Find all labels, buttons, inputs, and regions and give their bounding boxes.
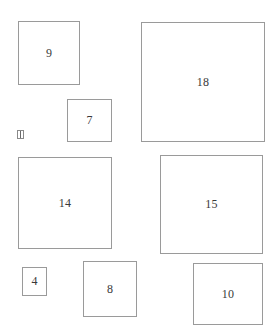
box-9: 9	[18, 21, 80, 85]
box-label: 7	[86, 113, 92, 128]
box-label: 15	[205, 197, 217, 212]
box-10: 10	[193, 263, 263, 325]
box-8: 8	[83, 261, 137, 317]
box-label: 14	[59, 196, 71, 211]
box-label: 8	[107, 282, 113, 297]
box-4: 4	[22, 267, 47, 296]
box-label: 18	[197, 75, 209, 90]
cut-off-top-text	[84, 0, 134, 2]
box-14: 14	[18, 157, 112, 249]
box-18: 18	[141, 22, 265, 142]
box-label: 9	[46, 46, 52, 61]
box-7: 7	[67, 99, 112, 142]
box-label: 4	[31, 274, 37, 289]
bracket-box-glyph-icon	[17, 130, 24, 139]
box-15: 15	[160, 155, 263, 254]
box-label: 10	[222, 287, 234, 302]
